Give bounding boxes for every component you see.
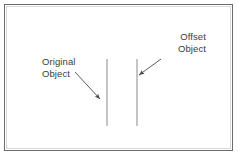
offset-leader-line	[139, 59, 161, 75]
offset-object-label: Offset Object	[163, 31, 206, 54]
offset-object-label-line2: Object	[163, 43, 206, 55]
original-object-label: Original Object	[42, 56, 76, 79]
original-object-label-line2: Object	[42, 68, 76, 80]
offset-object-label-line1: Offset	[163, 31, 206, 43]
diagram-canvas	[0, 0, 248, 162]
original-object-label-line1: Original	[42, 56, 76, 68]
original-leader-line	[75, 72, 100, 99]
diagram-root: Original Object Offset Object	[0, 0, 248, 162]
